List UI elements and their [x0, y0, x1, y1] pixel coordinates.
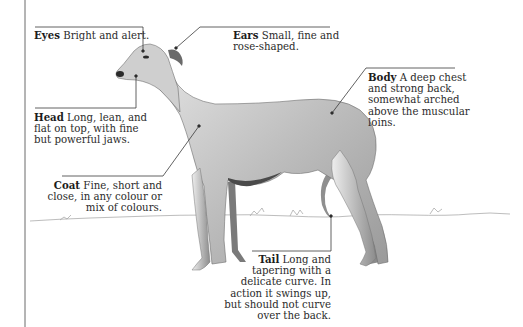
callout-text: close, in any colour or: [48, 191, 162, 202]
callout-text: tapering with a: [252, 265, 331, 276]
callout-term: Tail: [258, 253, 279, 265]
callout-head: Head Long, lean, and flat on top, with f…: [34, 112, 174, 146]
callout-text: mix of colours.: [86, 202, 162, 213]
callout-tail: Tail Long and tapering with a delicate c…: [181, 254, 331, 321]
callout-text: Bright and alert.: [63, 30, 149, 41]
callout-text: delicate curve. In: [241, 276, 331, 287]
callout-text: above the muscular: [368, 106, 470, 117]
callout-ears: Ears Small, fine and rose-shaped.: [233, 30, 343, 52]
callout-body: Body A deep chest and strong back, somew…: [368, 72, 518, 128]
callout-term: Ears: [233, 29, 258, 41]
callout-term: Body: [368, 71, 396, 83]
callout-text: over the back.: [257, 310, 331, 321]
callout-text: rose-shaped.: [233, 41, 299, 52]
callout-text: Long and: [283, 254, 331, 265]
callout-text: Small, fine and: [262, 30, 340, 41]
leader-tail: [252, 216, 331, 251]
callout-text: flat on top, with fine: [34, 123, 139, 134]
callout-text: but should not curve: [224, 299, 331, 310]
callout-text: but powerful jaws.: [34, 134, 130, 145]
callout-eyes: Eyes Bright and alert.: [34, 30, 154, 41]
whippet-diagram: Eyes Bright and alert. Ears Small, fine …: [0, 0, 523, 327]
dog-eye: [143, 55, 149, 58]
dog-nose: [116, 71, 124, 77]
callout-text: Fine, short and: [83, 180, 162, 191]
callout-term: Eyes: [34, 29, 60, 41]
callout-text: Long, lean, and: [67, 112, 147, 123]
dog-body: [160, 60, 388, 264]
callout-text: A deep chest: [400, 72, 467, 83]
callout-coat: Coat Fine, short and close, in any colou…: [22, 180, 162, 214]
leader-head: [35, 76, 136, 108]
callout-text: action it swings up,: [230, 288, 331, 299]
callout-text: and strong back,: [368, 83, 455, 94]
callout-text: somewhat arched: [368, 94, 460, 105]
callout-text: loins.: [368, 117, 396, 128]
dog-ear: [168, 50, 183, 67]
callout-term: Head: [34, 111, 64, 123]
callout-term: Coat: [54, 179, 80, 191]
